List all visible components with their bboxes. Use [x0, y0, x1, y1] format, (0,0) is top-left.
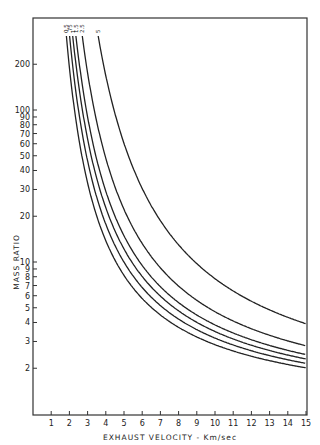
y-axis-label: MASS RATIO — [12, 234, 21, 290]
x-tick-label: 7 — [158, 419, 163, 428]
y-tick-label: 200 — [15, 60, 30, 69]
curve-label: 1.5 — [73, 24, 79, 33]
curve-1.5 — [76, 36, 305, 354]
chart: 123456789101112131415 234567891020304050… — [0, 0, 320, 445]
x-tick-label: 1 — [49, 419, 54, 428]
x-tick-label: 4 — [103, 419, 108, 428]
x-tick-label: 8 — [176, 419, 181, 428]
y-tick-label: 6 — [25, 292, 30, 301]
curve-5 — [98, 36, 305, 324]
curve-2.5 — [82, 36, 305, 346]
y-tick-label: 7 — [25, 282, 30, 291]
x-tick-label: 6 — [140, 419, 145, 428]
x-tick-label: 13 — [265, 419, 275, 428]
x-tick-label: 9 — [194, 419, 199, 428]
curve-label: 2.5 — [79, 24, 85, 33]
x-tick-label: 14 — [283, 419, 293, 428]
x-tick-label: 3 — [85, 419, 90, 428]
x-axis-ticks: 123456789101112131415 — [49, 411, 311, 428]
y-tick-label: 8 — [25, 273, 30, 282]
y-tick-label: 3 — [25, 337, 30, 346]
y-tick-label: 5 — [25, 304, 30, 313]
y-tick-label: 70 — [20, 130, 30, 139]
y-tick-label: 20 — [20, 212, 30, 221]
y-axis-ticks: 23456789102030405060708090100200 — [15, 60, 37, 373]
y-tick-label: 60 — [20, 140, 30, 149]
y-tick-label: 4 — [25, 318, 30, 327]
curve-label: 5 — [95, 29, 101, 33]
curves: 0.5.7511.52.55 — [63, 24, 305, 368]
x-tick-label: 10 — [210, 419, 220, 428]
y-tick-label: 80 — [20, 121, 30, 130]
curve-0.5 — [66, 36, 305, 368]
x-tick-label: 15 — [301, 419, 311, 428]
x-tick-label: 11 — [228, 419, 238, 428]
y-tick-label: 10 — [20, 258, 30, 267]
x-tick-label: 12 — [246, 419, 256, 428]
y-tick-label: 40 — [20, 166, 30, 175]
y-tick-label: 2 — [25, 364, 30, 373]
y-tick-label: 30 — [20, 185, 30, 194]
y-tick-label: 50 — [20, 152, 30, 161]
y-tick-label: 100 — [15, 106, 30, 115]
curve-.75 — [70, 36, 306, 363]
x-tick-label: 5 — [121, 419, 126, 428]
x-axis-label: EXHAUST VELOCITY - Km/sec — [103, 433, 237, 442]
x-tick-label: 2 — [67, 419, 72, 428]
